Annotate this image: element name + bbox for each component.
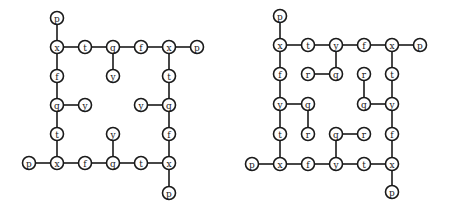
graph-node-f: f <box>135 41 148 54</box>
node-label: y <box>137 101 144 111</box>
node-label: q <box>110 159 116 169</box>
node-label: x <box>277 41 282 51</box>
graph-node-p: p <box>191 41 204 54</box>
graph-node-y: y <box>274 98 287 111</box>
graph-node-q: q <box>51 99 64 112</box>
graph-node-p: p <box>246 158 259 171</box>
graph-node-p: p <box>414 39 427 52</box>
graph-node-f: f <box>79 157 92 170</box>
graph-node-x: x <box>51 157 64 170</box>
node-label: p <box>54 14 60 24</box>
graph-node-x: x <box>274 39 287 52</box>
graph-node-x: x <box>386 158 399 171</box>
graph-node-x: x <box>274 158 287 171</box>
graph-node-t: t <box>386 68 399 81</box>
node-label: x <box>54 159 59 169</box>
graph-node-q: q <box>330 128 343 141</box>
left-graph-nodes: pxtqfxpyftqyyqtyfpxfqtxp <box>23 12 204 200</box>
node-label: p <box>389 188 395 198</box>
graph-node-y: y <box>330 158 343 171</box>
graph-node-p: p <box>274 10 287 23</box>
node-label: p <box>249 160 255 170</box>
graph-node-f: f <box>274 68 287 81</box>
left-graph: pxtqfxpyftqyyqtyfpxfqtxp <box>23 12 204 200</box>
node-label: y <box>109 72 116 82</box>
graph-node-r: r <box>302 128 315 141</box>
graph-node-y: y <box>135 99 148 112</box>
node-label: y <box>109 130 116 140</box>
graph-node-f: f <box>163 128 176 141</box>
node-label: t <box>55 130 59 140</box>
graph-node-t: t <box>135 157 148 170</box>
graph-node-q: q <box>330 68 343 81</box>
graph-node-r: r <box>358 68 371 81</box>
graph-node-y: y <box>107 128 120 141</box>
node-label: q <box>305 100 311 110</box>
graph-node-t: t <box>79 41 92 54</box>
graph-node-t: t <box>358 158 371 171</box>
node-label: t <box>390 70 394 80</box>
graph-node-x: x <box>163 157 176 170</box>
graph-node-f: f <box>358 39 371 52</box>
graph-node-f: f <box>302 158 315 171</box>
node-label: x <box>54 43 59 53</box>
graph-node-p: p <box>51 12 64 25</box>
graph-node-x: x <box>163 41 176 54</box>
graph-node-x: x <box>386 39 399 52</box>
graph-node-r: r <box>302 68 315 81</box>
node-label: p <box>166 189 172 199</box>
graph-node-q: q <box>107 41 120 54</box>
graph-node-q: q <box>163 99 176 112</box>
graph-node-y: y <box>330 39 343 52</box>
node-label: t <box>306 41 310 51</box>
node-label: r <box>362 130 367 140</box>
graph-node-q: q <box>358 98 371 111</box>
node-label: q <box>110 43 116 53</box>
node-label: r <box>306 130 311 140</box>
node-label: q <box>333 70 339 80</box>
node-label: q <box>361 100 367 110</box>
node-label: q <box>54 101 60 111</box>
graph-node-t: t <box>302 39 315 52</box>
node-label: y <box>388 100 395 110</box>
node-label: y <box>332 41 339 51</box>
node-label: t <box>278 130 282 140</box>
node-label: y <box>81 101 88 111</box>
graph-node-q: q <box>107 157 120 170</box>
node-label: x <box>277 160 282 170</box>
graph-node-y: y <box>79 99 92 112</box>
graph-node-t: t <box>163 70 176 83</box>
node-label: t <box>139 159 143 169</box>
node-label: q <box>333 130 339 140</box>
node-label: t <box>362 160 366 170</box>
node-label: y <box>332 160 339 170</box>
node-label: p <box>417 41 423 51</box>
node-label: q <box>166 101 172 111</box>
node-label: t <box>83 43 87 53</box>
node-label: t <box>167 72 171 82</box>
graph-node-t: t <box>274 128 287 141</box>
graph-canvas: pxtqfxpyftqyyqtyfpxfqtxp pxtyfxpfrqrtyqq… <box>0 0 451 217</box>
graph-node-y: y <box>386 98 399 111</box>
graph-node-p: p <box>163 187 176 200</box>
node-label: p <box>194 43 200 53</box>
node-label: x <box>166 159 171 169</box>
node-label: p <box>277 12 283 22</box>
node-label: x <box>389 41 394 51</box>
graph-node-t: t <box>51 128 64 141</box>
graph-node-p: p <box>386 186 399 199</box>
node-label: r <box>362 70 367 80</box>
graph-node-r: r <box>358 128 371 141</box>
node-label: y <box>276 100 283 110</box>
right-graph-nodes: pxtyfxpfrqrtyqqytrqrfpxfytxp <box>246 10 427 199</box>
graph-node-p: p <box>23 157 36 170</box>
graph-node-f: f <box>386 128 399 141</box>
node-label: x <box>166 43 171 53</box>
graph-node-y: y <box>107 70 120 83</box>
node-label: x <box>389 160 394 170</box>
graph-node-f: f <box>51 70 64 83</box>
node-label: r <box>306 70 311 80</box>
graph-node-x: x <box>51 41 64 54</box>
right-graph: pxtyfxpfrqrtyqqytrqrfpxfytxp <box>246 10 427 199</box>
graph-node-q: q <box>302 98 315 111</box>
